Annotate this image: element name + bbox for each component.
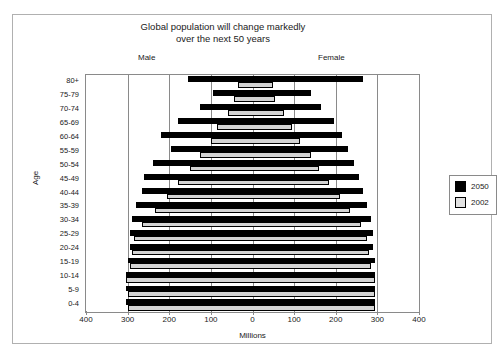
legend-item-2002: 2002 xyxy=(455,197,496,208)
bar-2002 xyxy=(142,222,361,228)
y-tick-35-39: 35-39 xyxy=(60,201,79,210)
chart-title-line-1: Global population will change markedly xyxy=(13,21,433,33)
y-tick-70-74: 70-74 xyxy=(60,104,79,113)
x-axis-tick-labels: 4003002001000100200300400 xyxy=(85,315,420,329)
y-tick-50-54: 50-54 xyxy=(60,160,79,169)
bar-2002 xyxy=(128,291,376,297)
x-tick-2: 200 xyxy=(149,315,189,324)
legend-swatch-2002 xyxy=(455,197,466,208)
bar-row xyxy=(86,131,419,145)
y-tick-0-4: 0-4 xyxy=(68,299,79,308)
chart-frame: Global population will change markedly o… xyxy=(12,14,492,344)
bar-2002 xyxy=(155,208,351,214)
y-tick-60-64: 60-64 xyxy=(60,132,79,141)
y-tick-5-9: 5-9 xyxy=(68,285,79,294)
bar-row xyxy=(86,270,419,284)
legend-label-2050: 2050 xyxy=(471,182,489,191)
x-axis-label: Millions xyxy=(85,331,420,340)
y-tick-40-44: 40-44 xyxy=(60,188,79,197)
bar-row xyxy=(86,159,419,173)
x-tick-1: 300 xyxy=(108,315,148,324)
x-tick-mark xyxy=(377,311,378,315)
bar-2002 xyxy=(167,194,340,200)
bar-row xyxy=(86,284,419,298)
x-tick-8: 400 xyxy=(399,315,439,324)
y-tick-25-29: 25-29 xyxy=(60,229,79,238)
bar-row xyxy=(86,200,419,214)
bar-2002 xyxy=(238,82,273,88)
bar-2002 xyxy=(217,124,292,130)
y-axis-tick-labels: 80+75-7970-7465-6960-6455-5950-5445-4940… xyxy=(13,74,83,313)
x-tick-3: 100 xyxy=(191,315,231,324)
x-tick-mark xyxy=(336,311,337,315)
x-tick-0: 400 xyxy=(66,315,106,324)
legend-swatch-2050 xyxy=(455,181,466,192)
legend-item-2050: 2050 xyxy=(455,181,496,192)
bar-2002 xyxy=(200,152,310,158)
bar-rows xyxy=(86,75,419,312)
bar-2002 xyxy=(128,305,376,311)
bar-row xyxy=(86,103,419,117)
x-tick-mark xyxy=(419,311,420,315)
bar-row xyxy=(86,187,419,201)
legend-label-2002: 2002 xyxy=(471,198,489,207)
x-tick-mark xyxy=(211,311,212,315)
y-tick-75-79: 75-79 xyxy=(60,90,79,99)
plot-area xyxy=(85,74,420,313)
bar-row xyxy=(86,75,419,89)
female-side-label: Female xyxy=(318,53,345,62)
chart-legend: 2050 2002 xyxy=(449,175,497,215)
x-tick-mark xyxy=(128,311,129,315)
bar-row xyxy=(86,89,419,103)
y-tick-65-69: 65-69 xyxy=(60,118,79,127)
x-tick-mark xyxy=(169,311,170,315)
x-tick-mark xyxy=(294,311,295,315)
x-tick-5: 100 xyxy=(274,315,314,324)
bar-2050 xyxy=(188,76,363,82)
x-tick-mark xyxy=(253,311,254,315)
chart-title: Global population will change markedly o… xyxy=(13,21,433,45)
x-tick-mark xyxy=(86,311,87,315)
bar-row xyxy=(86,173,419,187)
x-tick-7: 300 xyxy=(357,315,397,324)
bar-2002 xyxy=(228,110,284,116)
bar-row xyxy=(86,145,419,159)
bar-2002 xyxy=(190,166,319,172)
bar-2002 xyxy=(234,96,276,102)
bar-2002 xyxy=(132,250,369,256)
male-side-label: Male xyxy=(138,53,155,62)
y-tick-30-34: 30-34 xyxy=(60,215,79,224)
bar-2002 xyxy=(134,236,367,242)
y-tick-10-14: 10-14 xyxy=(60,271,79,280)
bar-2002 xyxy=(178,180,330,186)
bar-row xyxy=(86,256,419,270)
bar-2002 xyxy=(126,277,376,283)
x-tick-6: 200 xyxy=(316,315,356,324)
bar-2002 xyxy=(211,138,300,144)
y-tick-20-24: 20-24 xyxy=(60,243,79,252)
y-tick-45-49: 45-49 xyxy=(60,174,79,183)
x-tick-4: 0 xyxy=(233,315,273,324)
bar-2002 xyxy=(130,263,371,269)
y-tick-15-19: 15-19 xyxy=(60,257,79,266)
bar-row xyxy=(86,117,419,131)
bar-row xyxy=(86,298,419,312)
bar-row xyxy=(86,228,419,242)
bar-row xyxy=(86,242,419,256)
bar-row xyxy=(86,214,419,228)
chart-title-line-2: over the next 50 years xyxy=(13,33,433,45)
y-tick-55-59: 55-59 xyxy=(60,146,79,155)
y-tick-80+: 80+ xyxy=(66,76,79,85)
